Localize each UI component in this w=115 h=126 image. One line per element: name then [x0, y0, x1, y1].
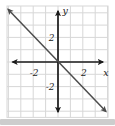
x-tick-label: 2	[80, 68, 87, 78]
x-tick-label: -2	[30, 68, 39, 78]
y-axis-label: y	[62, 5, 69, 16]
y-tick-label: 2	[48, 33, 55, 43]
bottom-edge-strip	[0, 119, 115, 125]
x-axis-label: x	[103, 67, 109, 78]
graph-panel: -222-2xy	[0, 0, 115, 126]
coordinate-plane: -222-2xy	[0, 0, 115, 126]
y-tick-label: -2	[46, 82, 55, 92]
